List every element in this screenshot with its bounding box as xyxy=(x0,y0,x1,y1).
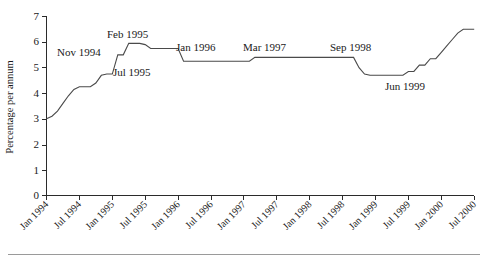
x-tick-label: Jul 1997 xyxy=(249,199,281,231)
x-tick-label: Jan 1998 xyxy=(280,199,313,232)
x-tick-label: Jan 1995 xyxy=(83,199,116,232)
annotation-sep-1998: Sep 1998 xyxy=(330,41,372,53)
y-tick-label: 1 xyxy=(34,164,40,176)
annotation-nov-1994: Nov 1994 xyxy=(57,46,101,58)
y-tick-label: 2 xyxy=(34,138,40,150)
y-tick-label: 3 xyxy=(34,112,40,124)
x-tick-label: Jul 1996 xyxy=(183,199,215,231)
interest-rate-line-chart: Percentage per annum 7 6 5 4 3 2 1 0 xyxy=(0,0,488,265)
y-tick-label: 0 xyxy=(34,189,40,201)
x-tick-label: Jan 2000 xyxy=(412,199,445,232)
x-tick-label: Jan 1999 xyxy=(346,199,379,232)
y-axis-title: Percentage per annum xyxy=(4,60,15,153)
x-tick-label: Jan 1997 xyxy=(215,199,248,232)
chart-figure: Percentage per annum 7 6 5 4 3 2 1 0 xyxy=(0,0,488,265)
annotation-jan-1996: Jan 1996 xyxy=(176,41,216,53)
x-tick-group: Jan 1994 Jul 1994 Jan 1995 Jul 1995 Jan … xyxy=(17,196,478,232)
x-tick-label: Jan 1996 xyxy=(149,199,182,232)
x-tick-label: Jul 1998 xyxy=(315,199,347,231)
x-tick-label: Jul 2000 xyxy=(446,199,478,231)
x-tick-label: Jan 1994 xyxy=(17,199,50,232)
y-tick-label: 4 xyxy=(34,87,40,99)
annotation-jun-1999: Jun 1999 xyxy=(385,80,426,92)
y-tick-label: 5 xyxy=(34,61,40,73)
x-tick-label: Jul 1995 xyxy=(117,199,149,231)
y-tick-label: 6 xyxy=(34,35,40,47)
x-tick-label: Jul 1994 xyxy=(51,199,83,231)
y-tick-group: 7 6 5 4 3 2 1 0 xyxy=(34,10,47,201)
annotation-feb-1995: Feb 1995 xyxy=(107,28,149,40)
annotation-mar-1997: Mar 1997 xyxy=(243,41,287,53)
y-tick-label: 7 xyxy=(34,10,40,22)
x-tick-label: Jul 1999 xyxy=(380,199,412,231)
annotation-jul-1995: Jul 1995 xyxy=(113,66,151,78)
